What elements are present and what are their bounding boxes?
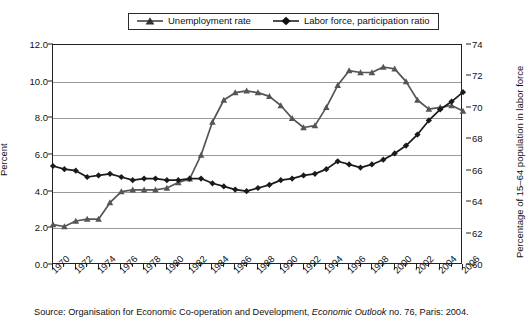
left-axis-tick-label: 8.0 bbox=[35, 112, 48, 123]
diamond-marker-icon bbox=[369, 161, 375, 167]
diamond-marker-icon bbox=[152, 175, 158, 181]
right-axis: 6062646668707274 bbox=[466, 44, 492, 264]
right-axis-tick-label: 74 bbox=[472, 39, 483, 50]
plot-area bbox=[52, 44, 462, 264]
left-axis: Percent 0.02.04.06.08.010.012.0 bbox=[0, 44, 48, 264]
right-axis-tick-label: 72 bbox=[472, 70, 483, 81]
diamond-marker-icon bbox=[312, 171, 318, 177]
source-suffix: no. 76, Paris: 2004. bbox=[386, 307, 468, 317]
diamond-marker-icon bbox=[278, 177, 284, 183]
diamond-marker-icon bbox=[300, 172, 306, 178]
diamond-marker-icon bbox=[232, 186, 238, 192]
diamond-marker-icon bbox=[118, 174, 124, 180]
diamond-marker-icon bbox=[357, 164, 363, 170]
left-axis-title: Percent bbox=[0, 143, 9, 176]
left-axis-tick-label: 12.0 bbox=[30, 39, 49, 50]
legend-label-labor-force: Labor force, participation ratio bbox=[304, 16, 430, 26]
diamond-marker-icon bbox=[61, 166, 67, 172]
right-axis-tick-label: 70 bbox=[472, 101, 483, 112]
triangle-marker-icon bbox=[323, 104, 330, 110]
right-axis-tick-mark bbox=[466, 201, 471, 202]
diamond-marker-icon bbox=[346, 161, 352, 167]
diamond-marker-icon bbox=[273, 16, 299, 26]
diamond-marker-icon bbox=[107, 171, 113, 177]
x-axis-labels: 1970197219741976197819801982198419861988… bbox=[0, 268, 527, 302]
right-axis-tick-mark bbox=[466, 138, 471, 139]
right-axis-tick-mark bbox=[466, 169, 471, 170]
source-italic: Economic Outlook bbox=[312, 307, 387, 317]
right-axis-tick-label: 68 bbox=[472, 133, 483, 144]
chart-figure: Unemployment rate Labor force, participa… bbox=[0, 0, 527, 330]
series-canvas bbox=[53, 45, 463, 265]
diamond-marker-icon bbox=[130, 177, 136, 183]
diamond-marker-icon bbox=[266, 182, 272, 188]
diamond-marker-icon bbox=[244, 188, 250, 194]
diamond-marker-icon bbox=[50, 163, 56, 169]
diamond-marker-icon bbox=[209, 180, 215, 186]
legend-item-labor-force: Labor force, participation ratio bbox=[273, 16, 430, 26]
right-axis-title: Percentage of 15–64 population in labor … bbox=[514, 66, 525, 258]
left-axis-tick-label: 6.0 bbox=[35, 149, 48, 160]
chart-legend: Unemployment rate Labor force, participa… bbox=[128, 13, 439, 30]
triangle-marker-icon bbox=[209, 119, 216, 125]
series-labor-force-participation-ratio bbox=[50, 89, 466, 194]
left-axis-tick-label: 4.0 bbox=[35, 185, 48, 196]
source-note: Source: Organisation for Economic Co-ope… bbox=[34, 307, 469, 317]
source-prefix: Source: Organisation for Economic Co-ope… bbox=[34, 307, 312, 317]
right-axis-tick-label: 64 bbox=[472, 196, 483, 207]
legend-label-unemployment-rate: Unemployment rate bbox=[168, 16, 251, 26]
diamond-marker-icon bbox=[141, 175, 147, 181]
right-axis-tick-label: 62 bbox=[472, 227, 483, 238]
diamond-marker-icon bbox=[164, 177, 170, 183]
right-axis-tick-mark bbox=[466, 44, 471, 45]
diamond-marker-icon bbox=[255, 185, 261, 191]
series-line bbox=[53, 92, 463, 191]
diamond-marker-icon bbox=[198, 175, 204, 181]
legend-item-unemployment-rate: Unemployment rate bbox=[137, 16, 251, 26]
diamond-marker-icon bbox=[221, 183, 227, 189]
left-axis-tick-label: 2.0 bbox=[35, 222, 48, 233]
diamond-marker-icon bbox=[95, 172, 101, 178]
right-axis-tick-mark bbox=[466, 75, 471, 76]
left-axis-tick-label: 10.0 bbox=[30, 75, 49, 86]
diamond-marker-icon bbox=[73, 168, 79, 174]
triangle-marker-icon bbox=[137, 16, 163, 26]
triangle-marker-icon bbox=[198, 152, 205, 158]
right-axis-tick-mark bbox=[466, 232, 471, 233]
diamond-marker-icon bbox=[289, 175, 295, 181]
right-axis-tick-mark bbox=[466, 106, 471, 107]
right-axis-tick-label: 66 bbox=[472, 164, 483, 175]
